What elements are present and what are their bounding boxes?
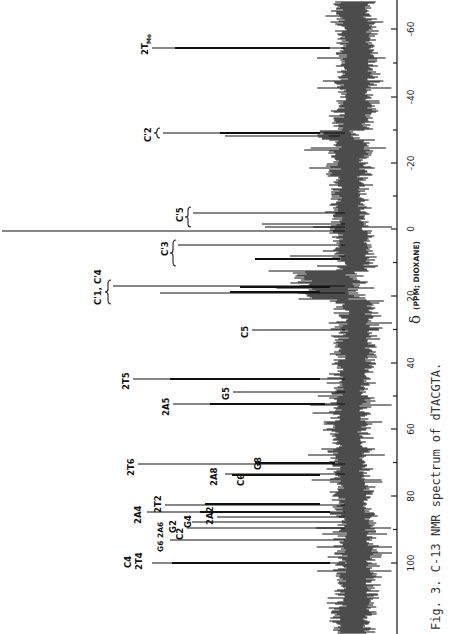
label-g5: G5 [221, 387, 231, 400]
axis-tick-label: 60 [406, 423, 416, 435]
svg-text:G5: G5 [221, 387, 231, 400]
label-2t-me: 2T Me [140, 34, 152, 55]
svg-text:C'2: C'2 [143, 127, 153, 142]
axis-tick-label: -20 [406, 155, 416, 170]
noise-trace [269, 2, 393, 633]
baseline-noise [269, 2, 393, 633]
nmr-spectrum-figure: 100806040200-20-40-60 δ (PPM; DIOXANE) F… [0, 0, 450, 634]
svg-text:2T2: 2T2 [153, 495, 163, 513]
svg-text:G6 2A6: G6 2A6 [156, 522, 165, 552]
svg-text:C'3: C'3 [160, 241, 170, 256]
label-2t6: 2T6 [126, 458, 136, 476]
svg-text:G8: G8 [253, 457, 263, 470]
label-c5-prime: C'5 [175, 207, 185, 222]
svg-text:C4: C4 [123, 556, 133, 568]
svg-text:2T5: 2T5 [121, 372, 131, 390]
label-2t2: 2T2 [153, 495, 163, 513]
label-2a4: 2A4 [133, 506, 143, 524]
figure-caption: Fig. 3. C-13 NMR spectrum of dTACGTA. [429, 363, 443, 630]
svg-text:C'5: C'5 [175, 207, 185, 222]
svg-text:2T4: 2T4 [134, 552, 144, 570]
label-c3-prime: C'3 [160, 241, 170, 256]
svg-text:Me: Me [145, 34, 152, 44]
axis-tick-label: 40 [406, 357, 416, 369]
label-c5: C5 [240, 326, 250, 338]
label-2a2: 2A2 [205, 507, 215, 525]
label-c2: C2 [175, 528, 185, 540]
svg-text:C'1, C'4: C'1, C'4 [93, 269, 103, 305]
label-c4: C4 [123, 556, 133, 568]
label-g8: G8 [253, 457, 263, 470]
axis-tick-label: -60 [406, 21, 416, 36]
label-2t4: 2T4 [134, 552, 144, 570]
svg-text:2A2: 2A2 [205, 507, 215, 525]
svg-text:C5: C5 [240, 326, 250, 338]
svg-text:G4: G4 [183, 515, 193, 528]
delta-symbol: δ [406, 315, 424, 324]
label-2a5: 2A5 [161, 398, 171, 416]
label-2a8: 2A8 [209, 468, 219, 486]
axis-tick-label: 100 [406, 554, 416, 571]
svg-text:2T6: 2T6 [126, 458, 136, 476]
label-g4: G4 [183, 515, 193, 528]
label-c2-prime: C'2 [143, 127, 153, 142]
label-c1-c4-prime: C'1, C'4 [93, 269, 103, 305]
svg-text:2A4: 2A4 [133, 506, 143, 524]
svg-text:C6: C6 [236, 474, 246, 486]
caption-text: Fig. 3. C-13 NMR spectrum of dTACGTA. [429, 363, 443, 630]
label-2t5: 2T5 [121, 372, 131, 390]
axis-unit-label: (PPM; DIOXANE) [412, 241, 421, 310]
svg-text:2A8: 2A8 [209, 468, 219, 486]
x-axis-label: δ (PPM; DIOXANE) [406, 241, 424, 324]
peak-lines [2, 48, 345, 563]
svg-text:C2: C2 [175, 528, 185, 540]
label-g6-2a6: G6 2A6 [156, 522, 165, 552]
label-c6: C6 [236, 474, 246, 486]
svg-text:2A5: 2A5 [161, 398, 171, 416]
axis-tick-label: 0 [406, 226, 416, 232]
peak-labels: 2T Me C'2 C'5 C'3 C'1, C'4 C5 2T5 G5 2A5… [93, 34, 263, 570]
axis-tick-label: 80 [406, 490, 416, 502]
axis-tick-label: -40 [406, 89, 416, 104]
